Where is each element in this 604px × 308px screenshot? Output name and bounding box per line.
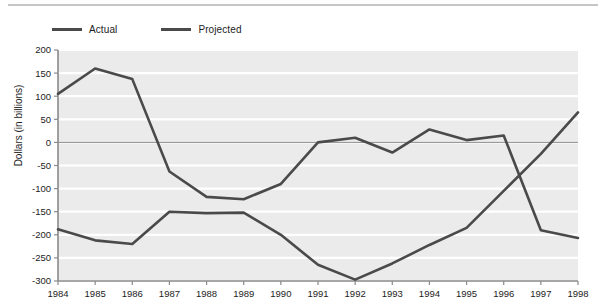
x-tick-label-1989: 1989 (233, 288, 254, 299)
y-tick-label-50: 50 (40, 114, 51, 125)
x-tick-label-1991: 1991 (307, 288, 328, 299)
y-tick-label--50: -50 (37, 160, 51, 171)
x-tick-label-1995: 1995 (456, 288, 477, 299)
y-tick-label--150: -150 (32, 206, 51, 217)
x-tick-label-1984: 1984 (47, 288, 68, 299)
y-tick-label--300: -300 (32, 275, 51, 286)
y-tick-label--200: -200 (32, 229, 51, 240)
x-tick-label-1986: 1986 (122, 288, 143, 299)
y-tick-label-200: 200 (35, 44, 51, 55)
y-tick-label-0: 0 (46, 137, 51, 148)
x-tick-label-1988: 1988 (196, 288, 217, 299)
chart-plot: 200150100500-50-100-150-200-250-30019841… (0, 0, 604, 308)
x-tick-label-1998: 1998 (567, 288, 588, 299)
y-tick-label--250: -250 (32, 252, 51, 263)
y-tick-label-100: 100 (35, 91, 51, 102)
x-tick-label-1987: 1987 (159, 288, 180, 299)
x-tick-label-1993: 1993 (382, 288, 403, 299)
x-tick-label-1985: 1985 (85, 288, 106, 299)
x-tick-label-1992: 1992 (345, 288, 366, 299)
y-tick-label--100: -100 (32, 183, 51, 194)
x-tick-label-1990: 1990 (270, 288, 291, 299)
x-tick-label-1997: 1997 (530, 288, 551, 299)
y-tick-label-150: 150 (35, 68, 51, 79)
x-tick-label-1996: 1996 (493, 288, 514, 299)
x-tick-label-1994: 1994 (419, 288, 440, 299)
chart-container: Actual Projected Dollars (in billions) 2… (0, 0, 604, 308)
